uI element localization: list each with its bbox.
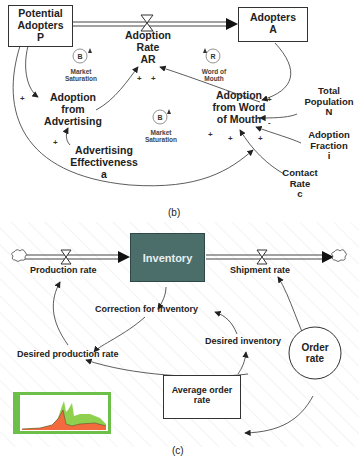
sparkline-chart bbox=[13, 392, 111, 434]
cloud-source-icon bbox=[12, 250, 27, 262]
sign-minus: - bbox=[268, 118, 271, 127]
var-order-rate: Orderrate bbox=[295, 342, 335, 364]
sign-plus: + bbox=[53, 138, 58, 147]
caption-b: (b) bbox=[168, 207, 180, 218]
var-average-order-rate: Average orderrate bbox=[163, 385, 241, 405]
flow-shipment-rate: Shipment rate bbox=[230, 265, 290, 275]
production-valve-icon bbox=[61, 250, 71, 264]
var-desired-inventory: Desired inventory bbox=[205, 336, 281, 346]
stock-potential-label: PotentialAdoptersP bbox=[8, 8, 73, 43]
sign-plus: + bbox=[208, 130, 213, 139]
var-adoption-fraction: AdoptionFractioni bbox=[303, 130, 355, 162]
stock-adopters-label: AdoptersA bbox=[238, 12, 308, 36]
sign-plus: + bbox=[20, 94, 25, 103]
shipment-pipe bbox=[206, 251, 334, 263]
flow-adoption-rate: AdoptionRateAR bbox=[120, 30, 176, 65]
var-adoption-advertising: AdoptionfromAdvertising bbox=[38, 92, 108, 127]
var-correction-inventory: Correction for inventory bbox=[95, 304, 198, 314]
var-adoption-wom: Adoptionfrom Wordof Mouth bbox=[204, 90, 274, 125]
var-desired-production-rate: Desired production rate bbox=[17, 349, 119, 359]
caption-c: (c) bbox=[172, 445, 184, 456]
sign-plus: + bbox=[258, 134, 263, 143]
var-total-population: TotalPopulationN bbox=[300, 86, 358, 118]
loop-market-saturation-2: MarketSaturation bbox=[140, 129, 182, 144]
production-pipe bbox=[24, 251, 130, 263]
shipment-valve-icon bbox=[257, 250, 267, 264]
sign-plus: + bbox=[228, 134, 233, 143]
var-contact-rate: ContactRatec bbox=[280, 168, 320, 200]
sign-plus: + bbox=[151, 74, 156, 83]
stock-inventory: Inventory bbox=[130, 233, 205, 282]
loop-word-of-mouth: Word ofMouth bbox=[194, 68, 234, 83]
sign-plus: + bbox=[267, 95, 272, 104]
sign-plus: + bbox=[137, 74, 142, 83]
cloud-sink-icon bbox=[332, 250, 347, 262]
var-advertising-effectiveness: AdvertisingEffectivenessa bbox=[70, 145, 138, 180]
loop-market-saturation-1: MarketSaturation bbox=[60, 68, 102, 83]
flow-production-rate: Production rate bbox=[30, 265, 97, 275]
